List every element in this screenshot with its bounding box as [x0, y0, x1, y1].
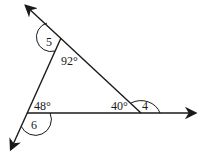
angle-label-5: 5: [46, 35, 52, 49]
left-ray: [11, 38, 61, 149]
diagonal-ray: [26, 6, 141, 113]
angle-label-48: 48°: [34, 99, 51, 113]
angle-label-4: 4: [142, 99, 148, 113]
angle-label-40: 40°: [111, 99, 128, 113]
triangle-diagram: 5 92° 48° 6 40° 4: [0, 0, 201, 160]
angle-label-92: 92°: [61, 54, 78, 68]
angle-label-6: 6: [31, 118, 37, 132]
